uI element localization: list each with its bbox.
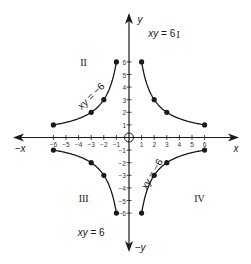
x-tick-label: −5	[62, 141, 69, 148]
y-tick-label: 1	[122, 121, 126, 128]
y-tick-label: 5	[122, 71, 126, 78]
data-point	[89, 110, 94, 115]
y-tick-label: 3	[122, 96, 126, 103]
equation-label: xy = 6	[148, 27, 175, 38]
data-point	[101, 173, 106, 178]
quadrant-label: II	[80, 56, 87, 67]
hyperbola-diagram	[0, 0, 251, 264]
neg-y-axis-label: −y	[135, 242, 146, 253]
y-tick-label: 6	[122, 58, 126, 65]
data-point	[202, 148, 207, 153]
y-tick-label: −4	[119, 184, 126, 191]
x-tick-label: 4	[178, 141, 182, 148]
data-point	[89, 160, 94, 165]
x-tick-label: 2	[152, 141, 156, 148]
axes	[13, 13, 239, 252]
data-point	[114, 59, 119, 64]
y-tick-label: −3	[119, 172, 126, 179]
x-tick-label: −6	[50, 141, 57, 148]
data-point	[51, 122, 56, 127]
data-point	[139, 59, 144, 64]
y-tick-label: 4	[122, 84, 126, 91]
quadrant-label: I	[176, 29, 179, 40]
y-tick-label: −5	[119, 197, 126, 204]
neg-x-axis-label: −x	[15, 143, 26, 154]
hyperbola-branch	[53, 150, 116, 213]
data-point	[139, 211, 144, 216]
x-tick-label: 1	[140, 141, 144, 148]
data-point	[152, 97, 157, 102]
y-tick-label: −2	[119, 159, 126, 166]
x-tick-label: −4	[75, 141, 82, 148]
x-tick-label: −3	[87, 141, 94, 148]
x-tick-label: −2	[100, 141, 107, 148]
data-point	[164, 110, 169, 115]
data-point	[202, 122, 207, 127]
pos-x-axis-label: x	[234, 143, 239, 154]
x-tick-label: 5	[190, 141, 194, 148]
quadrant-label: IV	[194, 192, 205, 203]
data-point	[51, 148, 56, 153]
quadrant-label: III	[79, 192, 89, 203]
y-tick-label: −1	[119, 147, 126, 154]
hyperbola-branch	[142, 62, 205, 125]
x-tick-label: 6	[203, 141, 207, 148]
pos-y-axis-label: y	[138, 14, 143, 25]
data-point	[101, 97, 106, 102]
y-tick-label: 2	[122, 109, 126, 116]
x-tick-label: 3	[165, 141, 169, 148]
y-tick-label: −6	[119, 210, 126, 217]
data-point	[164, 160, 169, 165]
equation-label: xy = 6	[78, 227, 105, 238]
